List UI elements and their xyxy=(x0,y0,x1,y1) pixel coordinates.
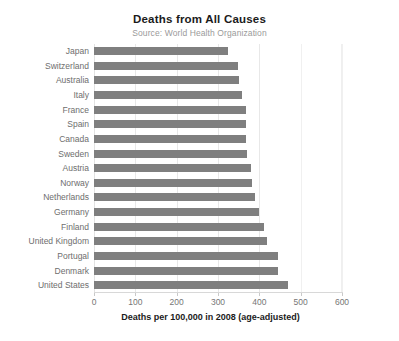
bar xyxy=(94,76,239,84)
y-axis-label: Finland xyxy=(61,220,89,234)
x-tick-label: 600 xyxy=(335,297,349,307)
bar xyxy=(94,252,278,260)
chart-title: Deaths from All Causes xyxy=(0,13,399,25)
bar-row: Austria xyxy=(94,161,342,176)
bar-row: Netherlands xyxy=(94,190,342,205)
y-axis-label: United Kingdom xyxy=(29,234,89,248)
bar xyxy=(94,223,264,231)
y-axis-label: Germany xyxy=(54,205,89,219)
bar-row: Denmark xyxy=(94,264,342,279)
y-axis-label: Switzerland xyxy=(45,59,89,73)
bar xyxy=(94,208,259,216)
y-axis-label: Japan xyxy=(66,44,89,58)
x-tick-label: 200 xyxy=(170,297,184,307)
x-tick-mark xyxy=(259,293,260,296)
x-tick-label: 400 xyxy=(252,297,266,307)
y-axis-label: Denmark xyxy=(55,264,89,278)
x-tick-mark xyxy=(342,293,343,296)
x-tick-label: 500 xyxy=(294,297,308,307)
x-tick-mark xyxy=(94,293,95,296)
deaths-from-all-causes-bar-chart: Deaths from All Causes Source: World Hea… xyxy=(0,0,399,341)
bar-row: Sweden xyxy=(94,147,342,162)
bar-row: Norway xyxy=(94,176,342,191)
plot-area-wrapper: JapanSwitzerlandAustraliaItalyFranceSpai… xyxy=(94,44,342,293)
bar xyxy=(94,135,246,143)
x-tick-label: 300 xyxy=(211,297,225,307)
x-axis-ticks: 0100200300400500600 xyxy=(94,293,342,313)
y-axis-label: Australia xyxy=(56,73,89,87)
bar-row: Switzerland xyxy=(94,59,342,74)
bar-row: Spain xyxy=(94,117,342,132)
y-axis-label: Spain xyxy=(67,117,89,131)
bar-row: United Kingdom xyxy=(94,234,342,249)
bar xyxy=(94,120,246,128)
bar xyxy=(94,62,238,70)
bar-row: United States xyxy=(94,278,342,293)
y-axis-label: Sweden xyxy=(58,147,89,161)
bar xyxy=(94,281,288,289)
y-axis-label: Canada xyxy=(59,132,89,146)
gridline-600 xyxy=(342,44,343,293)
x-tick-label: 100 xyxy=(128,297,142,307)
x-tick-label: 0 xyxy=(92,297,97,307)
y-axis-label: Norway xyxy=(60,176,89,190)
x-tick-mark xyxy=(301,293,302,296)
x-tick-mark xyxy=(135,293,136,296)
chart-subtitle-source: Source: World Health Organization xyxy=(0,28,399,38)
bar xyxy=(94,106,246,114)
bar xyxy=(94,164,251,172)
bar xyxy=(94,179,252,187)
bar xyxy=(94,91,242,99)
x-tick-mark xyxy=(218,293,219,296)
bar xyxy=(94,267,278,275)
bar xyxy=(94,150,247,158)
bar-row: Finland xyxy=(94,220,342,235)
x-axis-title: Deaths per 100,000 in 2008 (age-adjusted… xyxy=(0,312,399,322)
bar-row: Australia xyxy=(94,73,342,88)
y-axis-label: Austria xyxy=(63,161,89,175)
bars-layer: JapanSwitzerlandAustraliaItalyFranceSpai… xyxy=(94,44,342,293)
bar xyxy=(94,237,267,245)
bar-row: Italy xyxy=(94,88,342,103)
bar-row: Germany xyxy=(94,205,342,220)
y-axis-label: United States xyxy=(38,278,89,292)
y-axis-label: Netherlands xyxy=(43,190,89,204)
bar-row: France xyxy=(94,103,342,118)
x-tick-mark xyxy=(177,293,178,296)
bar-row: Portugal xyxy=(94,249,342,264)
bar xyxy=(94,193,255,201)
y-axis-label: Italy xyxy=(73,88,89,102)
y-axis-label: France xyxy=(63,103,89,117)
bar-row: Japan xyxy=(94,44,342,59)
bar-row: Canada xyxy=(94,132,342,147)
bar xyxy=(94,47,228,55)
y-axis-label: Portugal xyxy=(57,249,89,263)
